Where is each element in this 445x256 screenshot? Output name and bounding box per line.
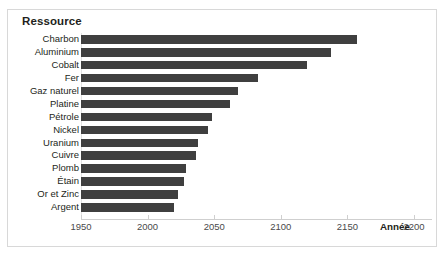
x-axis-tick-label: 1950 [70, 221, 91, 232]
x-axis-line [81, 219, 432, 220]
bar-category-label: Cuivre [0, 149, 79, 162]
bar-row: Fer [8, 72, 436, 85]
bar[interactable] [81, 113, 212, 122]
bar[interactable] [81, 61, 307, 70]
bar-track [81, 33, 432, 46]
bar-category-label: Gaz naturel [0, 85, 79, 98]
bar-row: Or et Zinc [8, 188, 436, 201]
bar[interactable] [81, 139, 198, 148]
bar-row: Étain [8, 175, 436, 188]
bar-category-label: Charbon [0, 33, 79, 46]
bar-category-label: Étain [0, 175, 79, 188]
bar-track [81, 124, 432, 137]
chart-panel: Ressource CharbonAluminiumCobaltFerGaz n… [7, 9, 437, 247]
page-title: Ressource [22, 15, 82, 27]
bar-row: Cobalt [8, 59, 436, 72]
x-axis-tick [414, 215, 415, 219]
bar[interactable] [81, 151, 196, 160]
bar-track [81, 201, 432, 214]
x-axis-tick-label: 2100 [270, 221, 291, 232]
bar-track [81, 137, 432, 150]
bar-category-label: Platine [0, 98, 79, 111]
bar-row: Argent [8, 201, 436, 214]
bar[interactable] [81, 100, 230, 109]
bar-row: Plomb [8, 162, 436, 175]
x-axis-tick-label: 2050 [204, 221, 225, 232]
bar-row: Aluminium [8, 46, 436, 59]
bar[interactable] [81, 35, 357, 44]
bar-track [81, 85, 432, 98]
x-axis-tick [281, 215, 282, 219]
x-axis-title: Année [380, 221, 410, 232]
bar[interactable] [81, 190, 178, 199]
bar-track [81, 162, 432, 175]
bar-row: Uranium [8, 137, 436, 150]
bar[interactable] [81, 164, 186, 173]
bar-category-label: Pétrole [0, 111, 79, 124]
x-axis-tick-label: 2150 [337, 221, 358, 232]
bar-category-label: Cobalt [0, 59, 79, 72]
bar-row: Pétrole [8, 111, 436, 124]
bar-track [81, 98, 432, 111]
bar[interactable] [81, 177, 184, 186]
bar-category-label: Argent [0, 201, 79, 214]
bar-row: Platine [8, 98, 436, 111]
bar[interactable] [81, 48, 331, 57]
bar-rows: CharbonAluminiumCobaltFerGaz naturelPlat… [8, 33, 436, 214]
bar-category-label: Nickel [0, 124, 79, 137]
bar-category-label: Or et Zinc [0, 188, 79, 201]
bar-category-label: Uranium [0, 137, 79, 150]
bar-category-label: Fer [0, 72, 79, 85]
bar-row: Charbon [8, 33, 436, 46]
bar-track [81, 175, 432, 188]
bar-category-label: Aluminium [0, 46, 79, 59]
bar[interactable] [81, 87, 238, 96]
bar-track [81, 111, 432, 124]
bar-row: Gaz naturel [8, 85, 436, 98]
x-axis-tick [81, 215, 82, 219]
bar-track [81, 149, 432, 162]
bar[interactable] [81, 203, 174, 212]
x-axis-tick [347, 215, 348, 219]
x-axis-tick-label: 2000 [137, 221, 158, 232]
chart-plot-area: Ressource CharbonAluminiumCobaltFerGaz n… [8, 10, 436, 246]
bar[interactable] [81, 74, 258, 83]
bar-category-label: Plomb [0, 162, 79, 175]
x-axis-tick [214, 215, 215, 219]
bar[interactable] [81, 126, 208, 135]
bar-track [81, 59, 432, 72]
x-axis-ticks [81, 215, 432, 219]
bar-row: Cuivre [8, 149, 436, 162]
bar-track [81, 46, 432, 59]
bar-track [81, 188, 432, 201]
x-axis-tick [148, 215, 149, 219]
bar-track [81, 72, 432, 85]
bar-row: Nickel [8, 124, 436, 137]
